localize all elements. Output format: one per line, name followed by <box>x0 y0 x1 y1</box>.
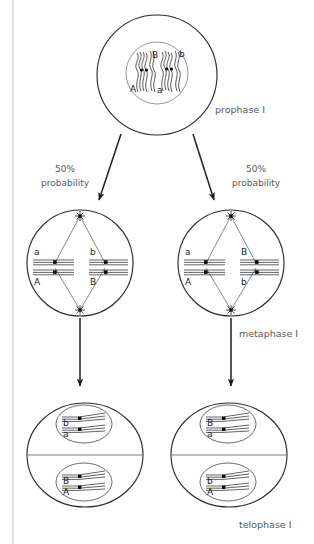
metaphase-left-allele-left-bottom: A <box>34 277 41 287</box>
prophase-centromere-left-2 <box>145 68 148 71</box>
prophase-allele-upper-left: B <box>152 50 158 60</box>
probability-label-left: 50% probability <box>41 164 90 188</box>
metaphase-right-allele-left-bottom: A <box>185 277 192 287</box>
telophase-right-bottom-upper-allele: b <box>207 476 213 486</box>
prophase-allele-upper-right: b <box>179 49 185 59</box>
stage-label-metaphase: metaphase I <box>239 328 298 339</box>
telophase-left-bottom-lower-allele: A <box>63 487 70 497</box>
stage-label-prophase: prophase I <box>215 104 265 115</box>
metaphase-left-centromere-B <box>104 270 108 274</box>
prophase-centromere-left-1 <box>140 68 143 71</box>
metaphase-cell-right: a A B b <box>178 210 284 316</box>
metaphase-right-centromere-A <box>204 270 208 274</box>
stage-label-telophase: telophase I <box>239 519 292 530</box>
metaphase-left-membrane <box>27 210 133 316</box>
svg-text:probability: probability <box>232 178 281 188</box>
metaphase-left-allele-right-top: b <box>90 247 96 257</box>
metaphase-left-pole-bottom <box>75 305 85 315</box>
telophase-left-top-upper-allele: b <box>63 418 69 428</box>
metaphase-left-allele-right-bottom: B <box>90 277 96 287</box>
prophase-cell: B b A a <box>97 15 217 135</box>
metaphase-right-centromere-b <box>255 270 259 274</box>
probability-label-right: 50% probability <box>232 164 281 188</box>
metaphase-right-allele-right-top: B <box>241 247 247 257</box>
meiosis-diagram: B b A a prophase I 50% probability 50% p… <box>0 0 314 544</box>
metaphase-right-pole-top <box>226 211 236 221</box>
diagram-canvas: B b A a prophase I 50% probability 50% p… <box>0 0 314 544</box>
prophase-centromere-right-2 <box>170 67 173 70</box>
telophase-right-top-lower-allele: a <box>207 429 213 439</box>
metaphase-right-centromere-a <box>204 260 208 264</box>
branch-arrow-right <box>193 134 214 200</box>
metaphase-left-pole-top <box>75 211 85 221</box>
telophase-left-nucleus-top: b a <box>56 405 112 443</box>
metaphase-right-allele-right-bottom: b <box>241 277 247 287</box>
branch-arrow-left <box>99 134 121 200</box>
metaphase-right-allele-left-top: a <box>185 247 191 257</box>
telophase-right-bottom-lower-allele: A <box>207 487 214 497</box>
prophase-centromere-right-1 <box>165 67 168 70</box>
metaphase-right-centromere-B <box>255 260 259 264</box>
metaphase-left-centromere-b <box>104 260 108 264</box>
metaphase-left-centromere-a <box>53 260 57 264</box>
metaphase-left-allele-left-top: a <box>34 247 40 257</box>
metaphase-right-pole-bottom <box>226 305 236 315</box>
telophase-left-top-lower-allele: a <box>63 429 69 439</box>
svg-text:probability: probability <box>41 178 90 188</box>
telophase-cell-left: b a B A <box>27 403 143 507</box>
telophase-right-nucleus-top: B a <box>200 405 256 443</box>
svg-text:50%: 50% <box>55 164 75 174</box>
telophase-right-top-upper-allele: B <box>207 418 213 428</box>
metaphase-right-membrane <box>178 210 284 316</box>
metaphase-cell-left: a A b B <box>27 210 133 316</box>
svg-text:50%: 50% <box>246 164 266 174</box>
telophase-right-nucleus-bottom: b A <box>200 463 256 501</box>
telophase-left-nucleus-bottom: B A <box>56 463 112 501</box>
prophase-allele-lower-right: a <box>157 85 163 95</box>
prophase-allele-lower-left: A <box>130 84 137 94</box>
telophase-left-bottom-upper-allele: B <box>63 476 69 486</box>
metaphase-left-centromere-A <box>53 270 57 274</box>
telophase-cell-right: B a b A <box>171 403 287 507</box>
